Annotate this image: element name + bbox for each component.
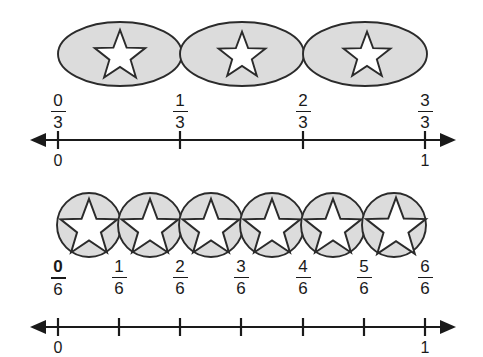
fraction-label-0-3: 0 3	[38, 92, 78, 131]
fraction-denominator: 6	[405, 280, 445, 297]
fraction-label-5-6: 5 6	[344, 258, 384, 297]
fraction-numerator: 4	[283, 258, 323, 276]
fraction-bar	[173, 277, 188, 278]
endpoint-label-zero: 0	[45, 339, 71, 357]
endpoint-label-zero: 0	[45, 152, 71, 170]
endpoint-label-one: 1	[412, 339, 438, 357]
fraction-label-6-6: 6 6	[405, 258, 445, 297]
fraction-denominator: 6	[160, 280, 200, 297]
right-arrowhead	[440, 133, 456, 147]
circle-shape-5	[301, 193, 365, 257]
left-arrowhead	[30, 320, 46, 334]
thirds-shape-group	[58, 22, 427, 86]
fraction-bar	[357, 277, 372, 278]
fraction-denominator: 6	[283, 280, 323, 297]
fraction-numerator: 1	[160, 92, 200, 110]
fraction-bar	[296, 277, 311, 278]
number-line-row-thirds: 0 3 1 3 2 3 3 3 0 1	[0, 0, 483, 176]
fraction-bar	[418, 111, 433, 112]
circle-shape-4	[240, 193, 304, 257]
fraction-label-1-6: 1 6	[99, 258, 139, 297]
fraction-denominator: 6	[221, 280, 261, 297]
fraction-label-2-3: 2 3	[283, 92, 323, 131]
sixths-number-line	[30, 318, 456, 336]
fraction-bar	[173, 111, 188, 112]
fraction-denominator: 3	[160, 114, 200, 131]
fraction-denominator: 3	[38, 114, 78, 131]
fraction-numerator: 5	[344, 258, 384, 276]
ellipse-shape-3	[303, 22, 427, 86]
fraction-numerator: 0	[38, 258, 78, 276]
fraction-denominator: 6	[99, 280, 139, 297]
fraction-label-1-3: 1 3	[160, 92, 200, 131]
fraction-numerator: 3	[221, 258, 261, 276]
fraction-bar	[418, 277, 433, 278]
fraction-label-2-6: 2 6	[160, 258, 200, 297]
thirds-graphics	[0, 0, 483, 176]
fraction-numerator: 0	[38, 92, 78, 110]
circle-shape-2	[118, 193, 182, 257]
endpoint-label-one: 1	[412, 152, 438, 170]
fraction-bar	[112, 277, 127, 278]
fraction-label-3-6: 3 6	[221, 258, 261, 297]
sixths-shape-group	[57, 193, 426, 257]
fraction-bar	[51, 277, 66, 279]
fraction-numerator: 2	[283, 92, 323, 110]
fraction-label-3-3: 3 3	[405, 92, 445, 131]
right-arrowhead	[440, 320, 456, 334]
circle-shape-6	[362, 193, 426, 257]
number-line-row-sixths: 0 6 1 6 2 6 3 6 4 6 5 6 6	[0, 176, 483, 352]
circle-shape-3	[179, 193, 243, 257]
fraction-label-0-6: 0 6	[38, 258, 78, 298]
fraction-label-4-6: 4 6	[283, 258, 323, 297]
fraction-bar	[234, 277, 249, 278]
ellipse-shape-1	[58, 22, 182, 86]
thirds-number-line	[30, 131, 456, 149]
ellipse-shape-2	[180, 22, 304, 86]
fraction-bar	[51, 111, 66, 112]
fraction-numerator: 1	[99, 258, 139, 276]
fraction-denominator: 3	[283, 114, 323, 131]
left-arrowhead	[30, 133, 46, 147]
circle-shape-1	[57, 193, 121, 257]
fraction-denominator: 6	[38, 281, 78, 298]
fraction-numerator: 3	[405, 92, 445, 110]
fraction-numerator: 6	[405, 258, 445, 276]
fraction-denominator: 6	[344, 280, 384, 297]
fraction-numerator: 2	[160, 258, 200, 276]
fraction-denominator: 3	[405, 114, 445, 131]
fraction-bar	[296, 111, 311, 112]
